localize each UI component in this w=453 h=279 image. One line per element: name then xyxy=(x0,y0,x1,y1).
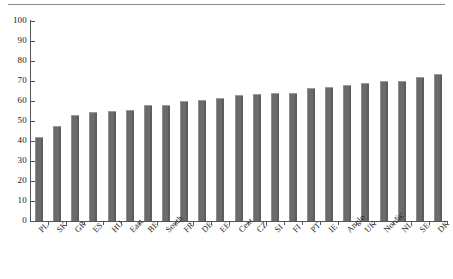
x-axis-tick-mark xyxy=(157,221,158,225)
x-axis-tick-label: GR xyxy=(73,220,88,235)
x-axis-tick-mark xyxy=(248,221,249,225)
x-axis-tick-mark xyxy=(429,221,430,225)
x-axis-tick-mark xyxy=(338,221,339,225)
x-axis-tick-mark xyxy=(84,221,85,225)
x-axis-tick-mark xyxy=(302,221,303,225)
x-axis-tick-label: SK xyxy=(55,220,69,234)
x-axis-tick-label: HU xyxy=(110,219,125,234)
x-axis-tick-mark xyxy=(139,221,140,225)
x-axis-tick-label: East xyxy=(128,217,145,234)
x-axis-tick-mark xyxy=(320,221,321,225)
x-axis-tick-mark xyxy=(103,221,104,225)
x-axis-tick-mark xyxy=(411,221,412,225)
x-axis-tick-label: DK xyxy=(436,219,451,234)
x-axis-tick-mark xyxy=(175,221,176,225)
x-axis-tick-label: SI xyxy=(273,223,285,235)
x-axis-tick-mark xyxy=(121,221,122,225)
x-axis-tick-mark xyxy=(48,221,49,225)
x-axis-tick-mark xyxy=(193,221,194,225)
x-axis-tick-mark xyxy=(393,221,394,225)
x-axis-tick-label: Cent xyxy=(237,216,255,234)
x-axis-tick-label: DE xyxy=(200,220,215,235)
x-axis-tick-mark xyxy=(374,221,375,225)
x-axis-tick-mark xyxy=(229,221,230,225)
x-axis-tick-mark xyxy=(266,221,267,225)
x-axis-tick-label: FI xyxy=(291,223,303,235)
x-axis-tick-mark xyxy=(356,221,357,225)
x-axis-tick-mark xyxy=(211,221,212,225)
x-axis-tick-mark xyxy=(66,221,67,225)
x-axis-tick-label: UK xyxy=(363,219,378,234)
x-axis-tick-mark xyxy=(284,221,285,225)
x-axis-tick-mark xyxy=(447,221,448,225)
chart-figure: 0102030405060708090100 PLSKGRESHUEastBES… xyxy=(0,0,453,279)
x-axis-labels: PLSKGRESHUEastBESouthFRDEEECentCZSIFIPTI… xyxy=(0,0,453,279)
x-axis-tick-label: NL xyxy=(400,220,415,235)
